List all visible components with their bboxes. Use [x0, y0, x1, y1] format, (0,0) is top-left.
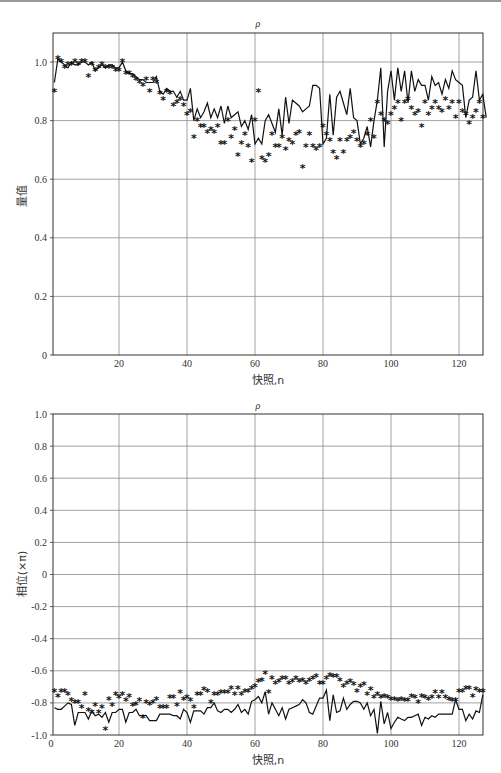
- x-tick-label: 40: [182, 738, 192, 749]
- asterisk-marker: *: [480, 112, 486, 125]
- asterisk-marker: *: [191, 702, 197, 715]
- x-tick-label: 20: [114, 358, 124, 369]
- asterisk-marker: *: [252, 115, 258, 128]
- y-tick-label: -1.0: [31, 730, 47, 741]
- x-tick-label: 120: [452, 738, 467, 749]
- asterisk-marker: *: [303, 141, 309, 154]
- asterisk-marker: *: [249, 156, 255, 169]
- asterisk-marker: *: [245, 141, 251, 154]
- asterisk-marker: *: [449, 97, 455, 110]
- asterisk-marker: *: [300, 162, 306, 175]
- y-tick-label: 0.6: [35, 174, 48, 185]
- asterisk-marker: *: [341, 147, 347, 160]
- y-tick-label: 0.4: [35, 505, 48, 516]
- y-tick-label: 0.8: [35, 115, 48, 126]
- asterisk-marker: *: [480, 686, 486, 699]
- y-tick-label: -0.6: [31, 665, 47, 676]
- phase-x-axis-label: 快照,n: [252, 754, 284, 767]
- x-tick-label: 120: [452, 358, 467, 369]
- y-tick-label: 0: [42, 350, 47, 361]
- asterisk-marker: *: [398, 115, 404, 128]
- y-tick-label: -0.2: [31, 601, 47, 612]
- asterisk-marker: *: [395, 97, 401, 110]
- y-tick-label: 0.2: [35, 291, 48, 302]
- phase-chart: -1.0-0.8-0.6-0.4-0.200.20.40.60.81.0 020…: [0, 390, 501, 773]
- asterisk-marker: *: [103, 724, 109, 737]
- asterisk-marker: *: [191, 132, 197, 145]
- asterisk-marker: *: [439, 106, 445, 119]
- phase-y-ticks: -1.0-0.8-0.6-0.4-0.200.20.40.60.81.0: [31, 409, 53, 741]
- y-tick-label: -0.4: [31, 633, 47, 644]
- magnitude-grid: [53, 33, 483, 355]
- asterisk-marker: *: [79, 702, 85, 715]
- asterisk-marker: *: [86, 71, 92, 84]
- magnitude-y-axis-label: 量值: [16, 185, 29, 207]
- x-tick-label: 60: [250, 738, 260, 749]
- x-tick-label: 20: [114, 738, 124, 749]
- asterisk-marker: *: [368, 115, 374, 128]
- asterisk-marker: *: [174, 700, 180, 713]
- magnitude-x-ticks: 20406080100120: [114, 358, 467, 369]
- phase-chart-title: ρ: [255, 400, 261, 411]
- y-tick-label: 0.2: [35, 537, 48, 548]
- magnitude-x-axis-label: 快照,n: [252, 374, 284, 387]
- asterisk-marker: *: [137, 695, 143, 708]
- asterisk-marker: *: [296, 127, 302, 140]
- y-tick-label: 1.0: [35, 409, 48, 420]
- asterisk-marker: *: [334, 153, 340, 166]
- asterisk-marker: *: [364, 129, 370, 142]
- asterisk-marker: *: [371, 132, 377, 145]
- x-tick-label: 100: [384, 358, 399, 369]
- y-tick-label: -0.8: [31, 697, 47, 708]
- asterisk-marker: *: [82, 689, 88, 702]
- y-tick-label: 0.6: [35, 473, 48, 484]
- y-tick-label: 0: [42, 569, 47, 580]
- asterisk-marker: *: [140, 712, 146, 725]
- asterisk-marker: *: [188, 106, 194, 119]
- asterisk-marker: *: [222, 138, 228, 151]
- asterisk-marker: *: [215, 121, 221, 134]
- y-tick-label: 0.4: [35, 232, 48, 243]
- x-tick-label: 0: [49, 738, 54, 749]
- x-tick-label: 100: [384, 738, 399, 749]
- magnitude-y-ticks: 00.20.40.60.81.0: [35, 57, 54, 361]
- asterisk-marker: *: [262, 668, 268, 681]
- asterisk-marker: *: [415, 106, 421, 119]
- magnitude-chart: 00.20.40.60.81.0 20406080100120 ********…: [0, 0, 501, 390]
- asterisk-marker: *: [235, 150, 241, 163]
- asterisk-marker: *: [256, 86, 262, 99]
- magnitude-plot-frame: [53, 33, 483, 355]
- asterisk-marker: *: [109, 700, 115, 713]
- x-tick-label: 40: [182, 358, 192, 369]
- asterisk-marker: *: [147, 86, 153, 99]
- asterisk-marker: *: [225, 115, 231, 128]
- asterisk-marker: *: [52, 86, 58, 99]
- asterisk-marker: *: [453, 112, 459, 125]
- asterisk-marker: *: [477, 97, 483, 110]
- asterisk-marker: *: [419, 121, 425, 134]
- x-tick-label: 80: [318, 358, 328, 369]
- y-tick-label: 0.8: [35, 441, 48, 452]
- asterisk-marker: *: [317, 141, 323, 154]
- asterisk-marker: *: [232, 124, 238, 137]
- magnitude-chart-title: ρ: [255, 18, 261, 29]
- phase-y-axis-label: 相位(×π): [15, 551, 29, 597]
- asterisk-marker: *: [82, 56, 88, 69]
- asterisk-marker: *: [266, 687, 272, 700]
- x-tick-label: 60: [250, 358, 260, 369]
- phase-x-ticks: 020406080100120: [49, 738, 467, 749]
- x-tick-label: 80: [318, 738, 328, 749]
- asterisk-marker: *: [99, 702, 105, 715]
- y-tick-label: 1.0: [35, 57, 48, 68]
- asterisk-marker: *: [266, 150, 272, 163]
